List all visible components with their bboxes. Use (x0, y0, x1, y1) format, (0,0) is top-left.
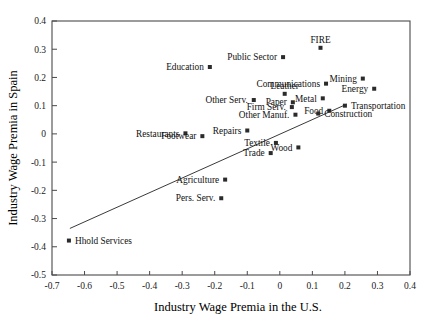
x-tick-label: -0.3 (175, 281, 190, 291)
point-label: Metal (295, 94, 317, 104)
point-marker (269, 151, 273, 155)
point-label: Trade (243, 148, 264, 158)
point-marker (343, 104, 347, 108)
chart-background (0, 0, 428, 321)
data-point: Other Manuf. (239, 110, 298, 120)
point-marker (219, 196, 223, 200)
point-label: Food (304, 106, 323, 116)
y-tick-label: -0.4 (31, 242, 46, 252)
point-label: FIRE (310, 35, 330, 45)
point-label: Wood (270, 143, 292, 153)
point-marker (67, 239, 71, 243)
point-marker (293, 113, 297, 117)
x-tick-label: -0.1 (240, 281, 255, 291)
point-label: Agriculture (176, 175, 219, 185)
data-point: Construction (316, 109, 372, 119)
point-marker (223, 178, 227, 182)
x-tick-label: 0 (277, 281, 282, 291)
y-tick-label: 0.3 (34, 45, 46, 55)
x-tick-label: -0.6 (77, 281, 92, 291)
point-label: Other Serv. (206, 95, 248, 105)
point-marker (372, 87, 376, 91)
point-marker (245, 129, 249, 133)
point-label: Construction (324, 109, 372, 119)
data-point: Hhold Services (67, 236, 132, 246)
point-label: Textile (244, 138, 270, 148)
point-label: Education (166, 62, 204, 72)
point-marker (291, 100, 295, 104)
point-marker (319, 46, 323, 50)
point-label: Mining (329, 74, 357, 84)
y-tick-label: 0 (41, 129, 46, 139)
x-tick-label: 0.1 (306, 281, 318, 291)
point-marker (283, 92, 287, 96)
point-marker (321, 96, 325, 100)
point-marker (281, 55, 285, 59)
point-label: Hhold Services (75, 236, 132, 246)
y-tick-label: 0.1 (34, 101, 46, 111)
x-tick-label: 0.4 (404, 281, 416, 291)
y-tick-label: -0.1 (31, 158, 46, 168)
point-marker (316, 112, 320, 116)
x-tick-label: -0.2 (207, 281, 222, 291)
y-tick-label: -0.5 (31, 270, 46, 280)
point-marker (290, 105, 294, 109)
x-tick-label: 0.3 (372, 281, 384, 291)
y-tick-label: 0.2 (34, 73, 46, 83)
x-tick-label: 0.2 (339, 281, 351, 291)
y-tick-label: -0.2 (31, 186, 46, 196)
chart-canvas: -0.7-0.6-0.5-0.4-0.3-0.2-0.100.10.20.30.… (0, 0, 428, 321)
data-point: Public Sector (227, 52, 285, 62)
point-marker (361, 77, 365, 81)
point-label: Repairs (213, 126, 242, 136)
point-label: Energy (342, 84, 369, 94)
point-label: Footwear (161, 131, 197, 141)
x-axis-title: Industry Wage Premia in the U.S. (154, 300, 322, 314)
point-marker (324, 82, 328, 86)
y-axis-title: Industry Wage Premia in Spain (6, 69, 20, 225)
x-tick-label: -0.7 (44, 281, 59, 291)
point-marker (296, 145, 300, 149)
point-marker (200, 134, 204, 138)
point-label: Other Manuf. (239, 110, 290, 120)
x-tick-label: -0.4 (142, 281, 157, 291)
y-tick-label: 0.4 (34, 16, 46, 26)
scatter-plot-figure: -0.7-0.6-0.5-0.4-0.3-0.2-0.100.10.20.30.… (0, 0, 428, 321)
x-tick-label: -0.5 (110, 281, 125, 291)
point-marker (208, 65, 212, 69)
point-label: Leather (271, 81, 300, 91)
point-label: Public Sector (227, 52, 278, 62)
point-label: Pers. Serv. (176, 193, 215, 203)
y-tick-label: -0.3 (31, 214, 46, 224)
